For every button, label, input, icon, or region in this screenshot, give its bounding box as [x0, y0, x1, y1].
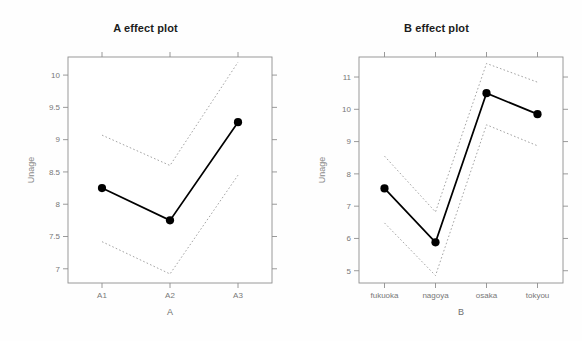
effect-plot-panel-b: B effect plot 567891011fukuokanagoyaosak… [291, 0, 582, 341]
data-point-marker [482, 89, 490, 97]
effect-plot-panel-a: A effect plot 77.588.599.510A1A2A3AUnage [0, 0, 291, 341]
data-point-marker [380, 184, 388, 192]
y-axis-title: Unage [26, 157, 36, 184]
y-tick-label: 6 [347, 234, 352, 243]
y-axis-title: Unage [317, 157, 327, 184]
x-category-label: osaka [476, 291, 498, 300]
y-tick-label: 7 [347, 202, 352, 211]
x-category-label: A1 [97, 291, 107, 300]
y-tick-label: 9 [347, 137, 352, 146]
x-category-label: fukuoka [370, 291, 399, 300]
x-axis-title: B [458, 307, 464, 317]
y-tick-label: 5 [347, 267, 352, 276]
figure-canvas: A effect plot 77.588.599.510A1A2A3AUnage… [0, 0, 582, 341]
data-point-marker [166, 216, 174, 224]
x-category-label: A3 [233, 291, 243, 300]
x-category-label: nagoya [422, 291, 449, 300]
y-tick-label: 9 [56, 135, 61, 144]
y-tick-label: 8 [56, 200, 61, 209]
x-category-label: tokyou [526, 291, 550, 300]
panel-a-plot-area: 77.588.599.510A1A2A3AUnage [0, 0, 291, 341]
y-tick-label: 8 [347, 170, 352, 179]
y-tick-label: 7 [56, 265, 61, 274]
y-tick-label: 8.5 [49, 168, 61, 177]
x-axis-title: A [167, 307, 173, 317]
y-tick-label: 11 [343, 73, 352, 82]
y-tick-label: 10 [51, 71, 60, 80]
y-tick-label: 10 [342, 105, 351, 114]
x-category-label: A2 [165, 291, 175, 300]
y-tick-label: 7.5 [49, 232, 61, 241]
data-point-marker [234, 118, 242, 126]
data-point-marker [98, 184, 106, 192]
panel-b-plot-area: 567891011fukuokanagoyaosakatokyouBUnage [291, 0, 582, 341]
data-point-marker [533, 110, 541, 118]
data-point-marker [431, 238, 439, 246]
y-tick-label: 9.5 [49, 103, 61, 112]
